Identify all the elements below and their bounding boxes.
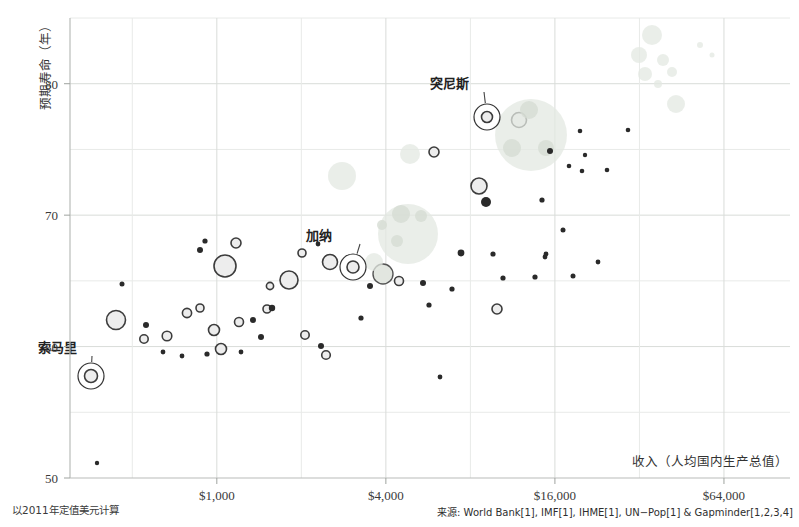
bubble-point [471, 178, 487, 194]
bubble-point [482, 112, 493, 123]
bubble-point [250, 317, 256, 323]
bubble-point [235, 318, 244, 327]
bubble-point [544, 252, 549, 257]
bubble-point [481, 197, 491, 207]
bubble-point [532, 274, 537, 279]
x-tick-label: $1,000 [199, 488, 235, 503]
bubble-point [182, 308, 191, 317]
bubble-point [140, 335, 148, 343]
bubble-point [85, 370, 98, 383]
bubble-point [395, 277, 404, 286]
annotation-leader-line [357, 244, 360, 254]
bubble-point [500, 275, 505, 280]
bubble-point [204, 351, 209, 356]
bubble-point [365, 253, 383, 271]
bubble-point [631, 47, 647, 63]
bubble-point [298, 249, 306, 257]
annotation-leader-line [484, 92, 485, 103]
bubble-point [561, 228, 566, 233]
footnote-label: 以2011年定值美元计算 [12, 504, 119, 516]
bubble-point [605, 168, 610, 173]
bubble-point [667, 95, 685, 113]
source-text: 来源: World Bank[1], IMF[1], IHME[1], UN−P… [437, 502, 793, 520]
footnote-text: 以2011年定值美元计算 [12, 500, 119, 518]
bubble-point [162, 331, 172, 341]
bubble-point [697, 42, 703, 48]
bubble-point [667, 67, 677, 77]
y-axis-title: 预期寿命（年） [38, 19, 53, 110]
bubble-point [347, 261, 359, 273]
bubble-point [538, 140, 554, 156]
bubble-point [426, 302, 431, 307]
bubble-point [196, 304, 204, 312]
bubble-point [547, 148, 553, 154]
bubble-point [490, 251, 495, 256]
bubble-point [216, 344, 227, 355]
bubble-point [400, 144, 420, 164]
x-tick-label: $4,000 [368, 488, 404, 503]
bubble-point [578, 129, 583, 134]
x-axis-title: 收入（人均国内生产总值） [632, 454, 788, 469]
bubbles-layer [85, 25, 715, 465]
bubble-chart: 索马里加纳突尼斯 50607080$1,000$4,000$16,000$64,… [0, 0, 799, 527]
bubble-point [377, 220, 387, 230]
source-label: 来源: World Bank[1], IMF[1], IHME[1], UN−P… [437, 507, 793, 518]
bubble-point [269, 305, 275, 311]
plot-canvas: 索马里加纳突尼斯 50607080$1,000$4,000$16,000$64,… [0, 0, 799, 527]
y-tick-label: 70 [45, 208, 58, 223]
bubble-point [367, 283, 373, 289]
x-tick-label: $64,000 [703, 488, 745, 503]
bubble-point [258, 334, 264, 340]
bubble-point [120, 282, 125, 287]
bubble-point [642, 25, 662, 45]
bubble-point [266, 282, 273, 289]
bubble-point [657, 54, 669, 66]
bubble-point [626, 128, 631, 133]
bubble-point [580, 169, 585, 174]
bubble-point [280, 271, 298, 289]
bubble-point [638, 67, 652, 81]
bubble-point [107, 311, 126, 330]
bubble-point [322, 351, 331, 360]
bubble-point [209, 325, 220, 336]
bubble-point [95, 461, 99, 465]
bubble-point [438, 375, 443, 380]
bubble-point [239, 350, 244, 355]
bubble-point [231, 238, 241, 248]
y-tick-label: 60 [45, 340, 58, 355]
bubble-point [202, 238, 207, 243]
bubble-point [301, 331, 309, 339]
bubble-point [197, 247, 203, 253]
annotation-label: 突尼斯 [430, 76, 469, 91]
y-tick-label: 50 [45, 471, 58, 486]
bubble-point [429, 147, 439, 157]
bubble-point [318, 343, 324, 349]
bubble-point [161, 350, 166, 355]
bubble-point [710, 53, 715, 58]
bubble-point [503, 139, 521, 157]
bubble-point [328, 162, 356, 190]
bubble-point [420, 280, 426, 286]
bubble-point [180, 354, 185, 359]
bubble-point [323, 255, 338, 270]
bubble-point [571, 274, 576, 279]
bubble-point [449, 286, 454, 291]
bubble-point [415, 210, 427, 222]
bubble-point [392, 205, 410, 223]
bubble-point [596, 260, 601, 265]
x-tick-label: $16,000 [534, 488, 576, 503]
bubble-point [214, 255, 236, 277]
bubble-point [391, 235, 403, 247]
bubble-point [567, 164, 572, 169]
bubble-point [358, 315, 363, 320]
bubble-point [583, 153, 587, 157]
bubble-point [654, 80, 662, 88]
bubble-point [143, 322, 149, 328]
bubble-point [492, 304, 502, 314]
annotation-label: 加纳 [305, 228, 332, 243]
bubble-point [458, 250, 465, 257]
bubble-point [520, 101, 538, 119]
bubble-point [539, 197, 544, 202]
